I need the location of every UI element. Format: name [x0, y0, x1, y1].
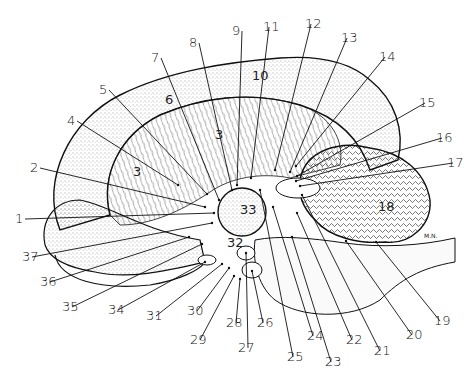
- callout-number: 25: [287, 349, 304, 364]
- callout-number: 28: [226, 315, 243, 330]
- callout-number: 24: [307, 328, 324, 343]
- superior-colliculus: [276, 178, 320, 198]
- leader-dot: [204, 261, 206, 263]
- callout-number: 21: [374, 343, 391, 358]
- callout-number: 17: [447, 155, 464, 170]
- callout-number: 16: [436, 130, 453, 145]
- cerebellum: [299, 145, 430, 242]
- region-number: 32: [227, 235, 244, 250]
- leader-dot: [221, 263, 223, 265]
- leader-dot: [218, 199, 220, 201]
- callout-number: 29: [190, 332, 207, 347]
- callout-number: 11: [263, 19, 280, 34]
- region-number: 18: [378, 199, 395, 214]
- brain-sagittal-diagram: 1245789111213141516171920212223242526272…: [0, 0, 476, 371]
- callout-number: 15: [419, 95, 436, 110]
- callout-number: 20: [406, 327, 423, 342]
- leader-dot: [228, 267, 230, 269]
- leader-dot: [295, 165, 297, 167]
- callout-number: 31: [146, 308, 163, 323]
- leader-dot: [296, 212, 298, 214]
- callout-number: 23: [325, 354, 342, 369]
- optic-chiasm: [198, 255, 216, 265]
- leader-dot: [375, 241, 377, 243]
- region-number: 6: [165, 92, 173, 107]
- callout-number: 14: [379, 49, 396, 64]
- callout-number: 19: [434, 313, 451, 328]
- callout-number: 30: [187, 303, 204, 318]
- leader-dot: [251, 270, 253, 272]
- leader-dot: [274, 169, 276, 171]
- leader-dot: [289, 171, 291, 173]
- leader-dot: [188, 236, 190, 238]
- callout-number: 13: [341, 30, 358, 45]
- callout-number: 5: [99, 82, 107, 97]
- leader-dot: [301, 194, 303, 196]
- leader-dot: [295, 180, 297, 182]
- leader-dot: [272, 206, 274, 208]
- callout-number: 9: [232, 23, 240, 38]
- callout-number: 36: [40, 274, 57, 289]
- region-number: 33: [240, 202, 257, 217]
- leader-dot: [250, 177, 252, 179]
- leader-dot: [231, 189, 233, 191]
- callout-number: 27: [238, 340, 255, 355]
- signature: M.N.: [424, 232, 438, 239]
- leader-dot: [236, 184, 238, 186]
- region-number: 10: [252, 68, 269, 83]
- callout-number: 2: [30, 160, 38, 175]
- leader-dot: [259, 189, 261, 191]
- leader-dot: [239, 278, 241, 280]
- callout-number: 37: [22, 249, 39, 264]
- leader-dot: [201, 243, 203, 245]
- region-number: 3: [133, 164, 141, 179]
- leader-dot: [299, 185, 301, 187]
- callout-number: 34: [108, 302, 125, 317]
- callout-number: 35: [62, 299, 79, 314]
- leader-dot: [233, 275, 235, 277]
- callout-number: 22: [346, 332, 363, 347]
- leader-dot: [177, 184, 179, 186]
- callout-number: 8: [189, 35, 197, 50]
- callout-number: 7: [151, 50, 159, 65]
- leader-line: [200, 276, 234, 340]
- region-number: 3: [215, 127, 223, 142]
- leader-dot: [345, 240, 347, 242]
- leader-dot: [204, 206, 206, 208]
- leader-dot: [211, 222, 213, 224]
- leader-dot: [296, 175, 298, 177]
- leader-dot: [206, 193, 208, 195]
- leader-dot: [291, 236, 293, 238]
- callout-number: 26: [257, 315, 274, 330]
- leader-dot: [213, 212, 215, 214]
- leader-dot: [245, 252, 247, 254]
- callout-number: 12: [305, 16, 322, 31]
- callout-number: 4: [67, 113, 75, 128]
- callout-number: 1: [15, 211, 23, 226]
